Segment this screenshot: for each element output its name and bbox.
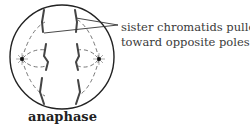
centrosome-right	[97, 57, 101, 61]
callout-line-2: toward opposite poles	[121, 35, 250, 50]
centrosome-left	[20, 57, 24, 61]
stage-caption: anaphase	[0, 109, 125, 124]
chromatids-right	[75, 10, 80, 104]
anaphase-diagram: sister chromatids pulled toward opposite…	[0, 0, 250, 134]
callout-label: sister chromatids pulled toward opposite…	[121, 20, 250, 49]
callout-line-1: sister chromatids pulled	[121, 20, 250, 35]
chromatids-left	[40, 10, 48, 104]
spindle-fibers-right	[78, 20, 99, 96]
